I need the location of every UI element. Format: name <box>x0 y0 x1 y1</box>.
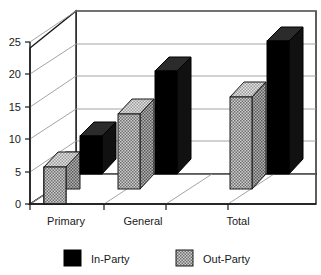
y-tick-label-0: 0 <box>15 198 21 210</box>
x-category-label-primary: Primary <box>47 215 85 227</box>
bar-total-out-party <box>230 82 266 189</box>
bar-chart-3d: 0 5 10 15 20 25 <box>0 0 321 275</box>
bar-general-out-party <box>118 99 154 189</box>
bar-general-in-party <box>155 57 191 174</box>
legend-label-in-party: In-Party <box>91 253 130 265</box>
x-category-label-general: General <box>123 215 162 227</box>
bar-front <box>230 97 252 189</box>
bar-front <box>267 41 289 174</box>
bar-side-face <box>289 27 303 174</box>
bar-total-in-party <box>267 27 303 174</box>
legend-item-out-party[interactable]: Out-Party <box>176 250 251 266</box>
y-tick-label-15: 15 <box>9 101 21 113</box>
x-axis: Primary General Total <box>30 204 316 227</box>
y-tick-label-5: 5 <box>15 166 21 178</box>
legend-item-in-party[interactable]: In-Party <box>64 250 130 266</box>
bar-side-face <box>177 57 191 174</box>
chart-legend: In-Party Out-Party <box>64 250 251 266</box>
black-swatch-icon <box>64 250 81 266</box>
gray-swatch-icon <box>176 250 193 266</box>
legend-label-out-party: Out-Party <box>203 253 251 265</box>
y-tick-label-25: 25 <box>9 36 21 48</box>
bar-front <box>118 114 140 189</box>
bar-front <box>80 136 102 174</box>
x-category-label-total: Total <box>226 215 249 227</box>
bar-front <box>44 167 66 204</box>
bar-side-face <box>140 99 154 189</box>
chart-canvas: 0 5 10 15 20 25 <box>0 0 321 275</box>
y-axis: 0 5 10 15 20 25 <box>9 36 30 210</box>
y-tick-label-20: 20 <box>9 68 21 80</box>
bar-side-face <box>252 82 266 189</box>
y-tick-label-10: 10 <box>9 133 21 145</box>
bar-front <box>155 71 177 174</box>
